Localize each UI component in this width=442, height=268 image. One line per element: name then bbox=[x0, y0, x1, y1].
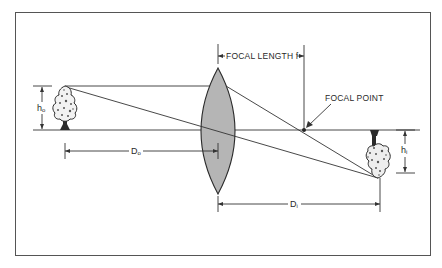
lens-diagram: FOCAL POINT FOCAL LENGTH f ho Do bbox=[0, 0, 442, 268]
ray-upper-segment bbox=[232, 80, 304, 130]
focal-point-label: FOCAL POINT bbox=[325, 93, 384, 103]
ho-arrow-bottom bbox=[40, 124, 44, 129]
object-tree-icon bbox=[53, 86, 77, 130]
image-tree-icon bbox=[366, 130, 390, 178]
focal-length-arrow-left bbox=[218, 54, 223, 58]
focal-point-arrow bbox=[308, 104, 331, 126]
focal-length-label: FOCAL LENGTH f bbox=[226, 51, 299, 61]
focal-length-arrow-right bbox=[299, 54, 304, 58]
ho-arrow-top bbox=[40, 87, 44, 92]
